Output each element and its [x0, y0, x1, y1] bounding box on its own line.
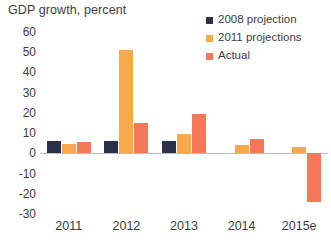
bar: [119, 50, 133, 153]
x-axis-tick-label: 2012: [112, 219, 140, 233]
y-axis-tick-label: 60: [2, 25, 36, 39]
x-axis: 20112012201320142015e: [40, 219, 328, 241]
chart-title: GDP growth, percent: [8, 3, 126, 17]
x-axis-tick-label: 2011: [55, 219, 82, 233]
legend-item[interactable]: 2008 projection: [206, 11, 331, 29]
bar: [162, 141, 176, 153]
bar: [62, 144, 76, 153]
gdp-growth-bar-chart: GDP growth, percent 2008 projection2011 …: [0, 0, 331, 247]
y-axis-tick-label: 10: [2, 126, 36, 140]
zero-baseline: [40, 153, 328, 154]
bar: [250, 139, 264, 153]
bar: [47, 141, 61, 153]
y-axis-tick-label: 50: [2, 45, 36, 59]
x-axis-tick-label: 2013: [170, 219, 198, 233]
y-axis-tick-label: 20: [2, 106, 36, 120]
y-axis-tick-label: -30: [2, 207, 36, 221]
bar: [192, 114, 206, 153]
bar: [292, 147, 306, 153]
y-axis-tick-label: 30: [2, 86, 36, 100]
y-axis-tick-label: -20: [2, 187, 36, 201]
plot-area: 6050403020100-10-20-30: [40, 32, 328, 214]
bar: [104, 141, 118, 153]
y-axis-tick-label: 40: [2, 65, 36, 79]
y-axis-tick-label: 0: [2, 146, 36, 160]
y-axis-tick-label: -10: [2, 167, 36, 181]
bar: [307, 153, 321, 202]
bar: [177, 134, 191, 153]
x-axis-tick-label: 2014: [228, 219, 256, 233]
x-axis-tick-label: 2015e: [282, 219, 317, 233]
square-swatch-icon: [206, 17, 213, 24]
legend-item-label: 2008 projection: [218, 14, 297, 26]
bar: [134, 123, 148, 153]
bar: [77, 142, 91, 153]
bar: [235, 145, 249, 153]
